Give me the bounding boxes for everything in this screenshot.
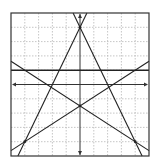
y-axis-up-arrow-icon bbox=[78, 14, 82, 18]
intersection-point bbox=[79, 105, 82, 108]
intersection-point bbox=[134, 140, 137, 143]
y-axis-down-arrow-icon bbox=[78, 151, 82, 155]
graph bbox=[0, 0, 158, 166]
intersection-point bbox=[79, 26, 82, 29]
x-axis-left-arrow-icon bbox=[12, 83, 16, 87]
intersection-point bbox=[23, 140, 26, 143]
axes bbox=[12, 14, 148, 155]
x-axis-right-arrow-icon bbox=[144, 83, 148, 87]
